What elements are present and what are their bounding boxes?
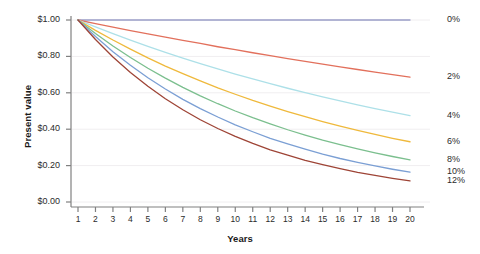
series-lines (78, 20, 410, 181)
y-tick-label: $1.00 (14, 14, 60, 24)
y-tick-label: $0.80 (14, 50, 60, 60)
series-line-4pct (78, 20, 410, 116)
series-label-8pct: 8% (447, 154, 480, 164)
y-tick-label: $0.20 (14, 160, 60, 170)
series-label-0pct: 0% (447, 14, 480, 24)
y-axis-ticks (66, 20, 71, 202)
series-line-6pct (78, 20, 410, 142)
y-tick-label: $0.00 (14, 196, 60, 206)
series-label-2pct: 2% (447, 71, 480, 81)
y-tick-label: $0.60 (14, 87, 60, 97)
series-line-12pct (78, 20, 410, 181)
series-label-4pct: 4% (447, 110, 480, 120)
axis-lines (71, 16, 424, 207)
series-line-2pct (78, 20, 410, 77)
x-tick-label: 20 (400, 214, 420, 224)
present-value-chart: Present value Years $0.00$0.20$0.40$0.60… (0, 0, 480, 254)
y-tick-label: $0.40 (14, 123, 60, 133)
series-label-6pct: 6% (447, 136, 480, 146)
y-axis-title: Present value (22, 57, 33, 177)
x-axis-title: Years (0, 233, 480, 244)
series-label-12pct: 12% (447, 175, 480, 185)
series-line-8pct (78, 20, 410, 160)
x-axis-ticks (78, 207, 410, 212)
